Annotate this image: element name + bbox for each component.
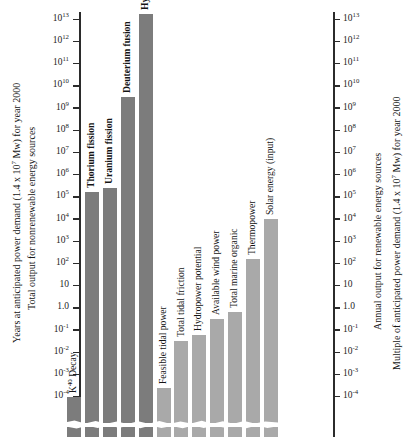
bar-rect — [139, 14, 153, 437]
bar-label: Hydropower potential — [193, 246, 203, 330]
bar-label: Available wind power — [211, 230, 221, 315]
bar-feasible-tidal-power[interactable]: Feasible tidal power — [157, 388, 171, 437]
bar-hydrogen-fusion[interactable]: Hydrogen fusion — [139, 14, 153, 437]
tick-label-right-17: 10-4 — [343, 391, 379, 401]
right-axis-caption-outer: Multiple of anticipated power demand (1.… — [391, 97, 402, 370]
bar-label: K40 Decay — [68, 352, 78, 393]
bar-rect — [246, 259, 260, 437]
bar-thermopower[interactable]: Thermopower — [246, 259, 260, 437]
plot-area: K40 DecayThorium fissionUranium fissionD… — [60, 12, 335, 437]
bar-chart: 1013101310121012101110111010101010910910… — [0, 0, 413, 443]
bar-label: Thorium fission — [86, 123, 96, 188]
bar-rect — [157, 388, 171, 437]
tick-label-right-16: 10-3 — [343, 369, 379, 379]
bar-label: Feasible tidal power — [158, 306, 168, 384]
bar-label: Total marine organic — [229, 229, 239, 309]
bar-rect — [228, 312, 242, 437]
bar-total-marine-organic[interactable]: Total marine organic — [228, 312, 242, 437]
bar-uranium-fission[interactable]: Uranium fission — [103, 188, 117, 437]
bar-rect — [103, 188, 117, 437]
bar-label: Thermopower — [247, 201, 257, 255]
bar-label: Uranium fission — [104, 118, 114, 184]
tick-label-right-4: 109 — [343, 103, 379, 113]
bar-rect — [67, 397, 81, 437]
bar-rect — [121, 97, 135, 437]
tick-label-right-0: 1013 — [343, 14, 379, 24]
bar-label: Total tidal friction — [176, 268, 186, 338]
tick-label-right-5: 108 — [343, 125, 379, 135]
bar-solar-energy-input[interactable]: Solar energy (input) — [264, 219, 278, 437]
bar-k-decay[interactable]: K40 Decay — [67, 397, 81, 437]
tick-label-right-1: 1012 — [343, 36, 379, 46]
bar-rect — [210, 319, 224, 437]
left-axis-caption-outer: Years at anticipated power demand (1.4 x… — [11, 83, 22, 343]
bar-label: Deuterium fusion — [122, 22, 132, 94]
bar-available-wind-power[interactable]: Available wind power — [210, 319, 224, 437]
tick-label-right-2: 1011 — [343, 58, 379, 68]
bar-label: Solar energy (input) — [265, 138, 275, 215]
bar-rect — [85, 192, 99, 437]
bar-label: Hydrogen fusion — [140, 0, 150, 10]
bar-thorium-fission[interactable]: Thorium fission — [85, 192, 99, 437]
right-axis-caption-inner: Annual output for renewable energy sourc… — [372, 153, 383, 330]
bar-rect — [264, 219, 278, 437]
left-axis-caption-inner: Total output for nonrenewable energy sou… — [26, 127, 37, 310]
tick-label-right-15: 10-2 — [343, 347, 379, 357]
bar-deuterium-fusion[interactable]: Deuterium fusion — [121, 97, 135, 437]
tick-label-right-3: 1010 — [343, 80, 379, 90]
